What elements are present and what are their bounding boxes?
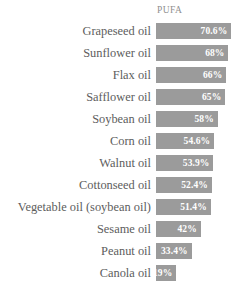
bar-track: 52.4% [156,174,237,196]
category-label: Peanut oil [0,240,151,262]
category-label: Safflower oil [0,86,151,108]
bar[interactable]: 66% [156,67,226,83]
bar-value-label: 42% [177,221,196,237]
bar-row[interactable]: Vegetable oil (soybean oil)51.4% [0,196,237,218]
bar-track: 53.9% [156,152,237,174]
category-label: Sesame oil [0,218,151,240]
bar-track: 54.6% [156,130,237,152]
category-label: Cottonseed oil [0,174,151,196]
bar-value-label: 66% [203,67,222,83]
bar-value-label: 52.4% [181,177,208,193]
bar-value-label: 53.9% [183,155,210,171]
bar[interactable]: 68% [156,45,228,61]
category-label: Corn oil [0,130,151,152]
series-header-label: PUFA [157,5,182,15]
bar-track: 42% [156,218,237,240]
bar-value-label: 70.6% [201,23,228,39]
bar[interactable]: 52.4% [156,177,212,193]
bar[interactable]: 53.9% [156,155,213,171]
category-label: Vegetable oil (soybean oil) [0,196,151,218]
category-label: Canola oil [0,262,151,284]
category-label: Walnut oil [0,152,151,174]
bar[interactable]: 51.4% [156,199,211,215]
bar-row[interactable]: Safflower oil65% [0,86,237,108]
bar[interactable]: 19% [156,265,176,281]
bar-track: 68% [156,42,237,64]
bar-value-label: 68% [205,45,224,61]
bar-value-label: 58% [195,111,214,127]
bar-track: 19% [156,262,237,284]
bar[interactable]: 70.6% [156,23,231,39]
bar-value-label: 54.6% [184,133,211,149]
bar[interactable]: 42% [156,221,201,237]
category-label: Flax oil [0,64,151,86]
bar-row[interactable]: Canola oil19% [0,262,237,284]
bar-row[interactable]: Corn oil54.6% [0,130,237,152]
bar-row[interactable]: Grapeseed oil70.6% [0,20,237,42]
category-label: Soybean oil [0,108,151,130]
bar-value-label: 51.4% [180,199,207,215]
bar-track: 51.4% [156,196,237,218]
bar-track: 33.4% [156,240,237,262]
bar-track: 66% [156,64,237,86]
bar-row[interactable]: Soybean oil58% [0,108,237,130]
bar-track: 70.6% [156,20,237,42]
bar-row[interactable]: Sesame oil42% [0,218,237,240]
bar[interactable]: 54.6% [156,133,214,149]
bar-track: 58% [156,108,237,130]
chart-header: PUFA [0,5,237,20]
bar-row[interactable]: Peanut oil33.4% [0,240,237,262]
bar-row[interactable]: Walnut oil53.9% [0,152,237,174]
bar-value-label: 19% [153,265,172,281]
category-label: Grapeseed oil [0,20,151,42]
bar[interactable]: 33.4% [156,243,192,259]
bar[interactable]: 65% [156,89,225,105]
bar-value-label: 65% [202,89,221,105]
bar-track: 65% [156,86,237,108]
bar-row[interactable]: Flax oil66% [0,64,237,86]
bar-row[interactable]: Sunflower oil68% [0,42,237,64]
bar-rows-container: Grapeseed oil70.6%Sunflower oil68%Flax o… [0,20,237,284]
pufa-bar-chart: PUFA Grapeseed oil70.6%Sunflower oil68%F… [0,0,237,292]
bar-row[interactable]: Cottonseed oil52.4% [0,174,237,196]
category-label: Sunflower oil [0,42,151,64]
bar-value-label: 33.4% [161,243,188,259]
bar[interactable]: 58% [156,111,218,127]
